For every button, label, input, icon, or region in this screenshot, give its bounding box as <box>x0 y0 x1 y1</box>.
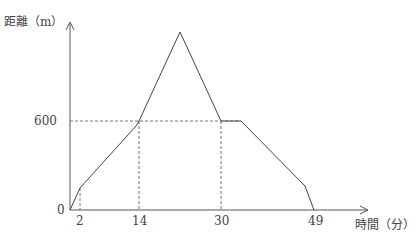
y-axis-label: 距離（m） <box>4 12 63 29</box>
x-tick-30: 30 <box>214 214 229 228</box>
x-tick-49: 49 <box>308 214 323 228</box>
origin-label: 0 <box>57 203 65 217</box>
x-axis-label: 時間（分） <box>355 215 415 232</box>
reference-lines <box>70 121 240 210</box>
x-tick-14: 14 <box>132 214 147 228</box>
y-tick-600: 600 <box>34 114 57 128</box>
x-tick-2: 2 <box>76 214 84 228</box>
